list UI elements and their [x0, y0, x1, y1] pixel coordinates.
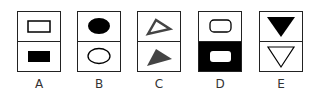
hollow-down-triangle-icon [260, 42, 302, 71]
white-rounded-rectangle-icon [199, 42, 241, 71]
option-a-top [18, 12, 60, 42]
option-c[interactable] [137, 11, 181, 72]
hollow-rounded-rectangle-icon [199, 12, 241, 41]
option-c-top [138, 12, 180, 42]
option-a-label: A [17, 77, 61, 91]
option-e-frame [259, 11, 303, 72]
option-e-top [260, 12, 302, 42]
option-b[interactable] [77, 11, 121, 72]
option-d-label: D [198, 77, 242, 91]
option-a[interactable] [17, 11, 61, 72]
option-e-label: E [259, 77, 303, 91]
option-e[interactable] [259, 11, 303, 72]
filled-rectangle-icon [18, 42, 60, 71]
filled-down-triangle-icon [260, 12, 302, 41]
option-d[interactable] [198, 11, 242, 72]
option-c-bottom [138, 42, 180, 71]
option-d-top [199, 12, 241, 42]
hollow-rectangle-icon [18, 12, 60, 41]
hollow-triangle-icon [138, 12, 180, 41]
option-e-bottom [260, 42, 302, 71]
option-b-frame [77, 11, 121, 72]
option-a-frame [17, 11, 61, 72]
option-d-bottom [199, 42, 241, 71]
option-c-frame [137, 11, 181, 72]
option-c-label: C [137, 77, 181, 91]
option-b-label: B [77, 77, 121, 91]
option-b-top [78, 12, 120, 42]
filled-ellipse-icon [78, 12, 120, 41]
hollow-ellipse-icon [78, 42, 120, 71]
option-a-bottom [18, 42, 60, 71]
option-d-frame [198, 11, 242, 72]
filled-triangle-icon [138, 42, 180, 71]
option-b-bottom [78, 42, 120, 71]
